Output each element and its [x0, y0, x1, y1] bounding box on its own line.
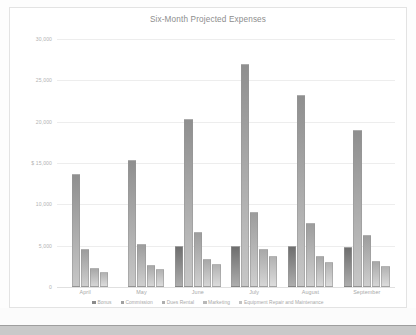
legend-label: Commission [125, 300, 152, 305]
bar-groups [57, 39, 395, 287]
bar[interactable] [81, 249, 89, 287]
legend-item[interactable]: Bonus [92, 300, 111, 305]
x-axis-tick-label: September [339, 289, 395, 295]
bar[interactable] [147, 265, 155, 287]
bar-group [339, 39, 395, 287]
legend-item[interactable]: Commission [121, 300, 153, 305]
bar[interactable] [288, 246, 296, 287]
x-axis-tick-label: June [170, 289, 226, 295]
legend-item[interactable]: Marketing [203, 300, 230, 305]
bar[interactable] [137, 244, 145, 287]
legend-label: Equipment Repair and Maintenance [244, 300, 324, 305]
legend-item[interactable]: Equipment Repair and Maintenance [239, 300, 324, 305]
x-axis-tick-label: April [57, 289, 113, 295]
bar[interactable] [353, 130, 361, 287]
bar[interactable] [363, 235, 371, 287]
bar[interactable] [372, 261, 380, 287]
gridline: 0 [57, 287, 395, 288]
legend-swatch-icon [162, 301, 165, 304]
bar[interactable] [231, 246, 239, 287]
bar-group [170, 39, 226, 287]
bar[interactable] [325, 262, 333, 287]
bar[interactable] [316, 256, 324, 287]
bar-group [57, 39, 113, 287]
bar[interactable] [128, 160, 136, 287]
bar[interactable] [194, 232, 202, 287]
plot-area: 05,00010,000$ 15,00020,00025,00030,000 [57, 39, 395, 287]
legend-label: Marketing [208, 300, 230, 305]
bar[interactable] [100, 272, 108, 287]
y-axis-tick-label: 25,000 [36, 77, 52, 83]
bar[interactable] [72, 174, 80, 287]
y-axis-tick-label: 20,000 [36, 119, 52, 125]
bar-group [226, 39, 282, 287]
bar[interactable] [175, 246, 183, 287]
bar[interactable] [306, 223, 314, 287]
bar[interactable] [156, 269, 164, 287]
bottom-scrollbar-strip[interactable] [0, 325, 416, 335]
bar[interactable] [381, 266, 389, 287]
bar-group [113, 39, 169, 287]
bar[interactable] [269, 256, 277, 287]
bar-group [282, 39, 338, 287]
legend-label: Dues Rental [167, 300, 194, 305]
legend-swatch-icon [239, 301, 242, 304]
y-axis-tick-label: $ 15,000 [31, 160, 52, 166]
bottom-shade [0, 308, 416, 326]
legend-swatch-icon [121, 301, 124, 304]
screen: Six-Month Projected Expenses 05,00010,00… [0, 0, 416, 335]
chart-panel: Six-Month Projected Expenses 05,00010,00… [9, 7, 407, 308]
bar[interactable] [203, 259, 211, 287]
bar[interactable] [241, 64, 249, 287]
bar[interactable] [184, 119, 192, 287]
x-axis-tick-label: July [226, 289, 282, 295]
y-axis-tick-label: 10,000 [36, 201, 52, 207]
y-axis-tick-label: 5,000 [39, 243, 52, 249]
bar[interactable] [250, 212, 258, 287]
x-axis-tick-label: May [113, 289, 169, 295]
legend-label: Bonus [97, 300, 111, 305]
y-axis-tick-label: 0 [49, 284, 52, 290]
legend-item[interactable]: Dues Rental [162, 300, 194, 305]
bar[interactable] [344, 247, 352, 288]
bar[interactable] [297, 95, 305, 287]
x-axis-labels: AprilMayJuneJulyAugustSeptember [57, 289, 395, 295]
bar[interactable] [212, 264, 220, 287]
chart-legend: BonusCommissionDues RentalMarketingEquip… [10, 300, 406, 305]
chart-title: Six-Month Projected Expenses [10, 15, 406, 24]
bar[interactable] [90, 268, 98, 287]
legend-swatch-icon [92, 301, 95, 304]
bar[interactable] [259, 249, 267, 287]
y-axis-tick-label: 30,000 [36, 36, 52, 42]
x-axis-tick-label: August [282, 289, 338, 295]
legend-swatch-icon [203, 301, 206, 304]
